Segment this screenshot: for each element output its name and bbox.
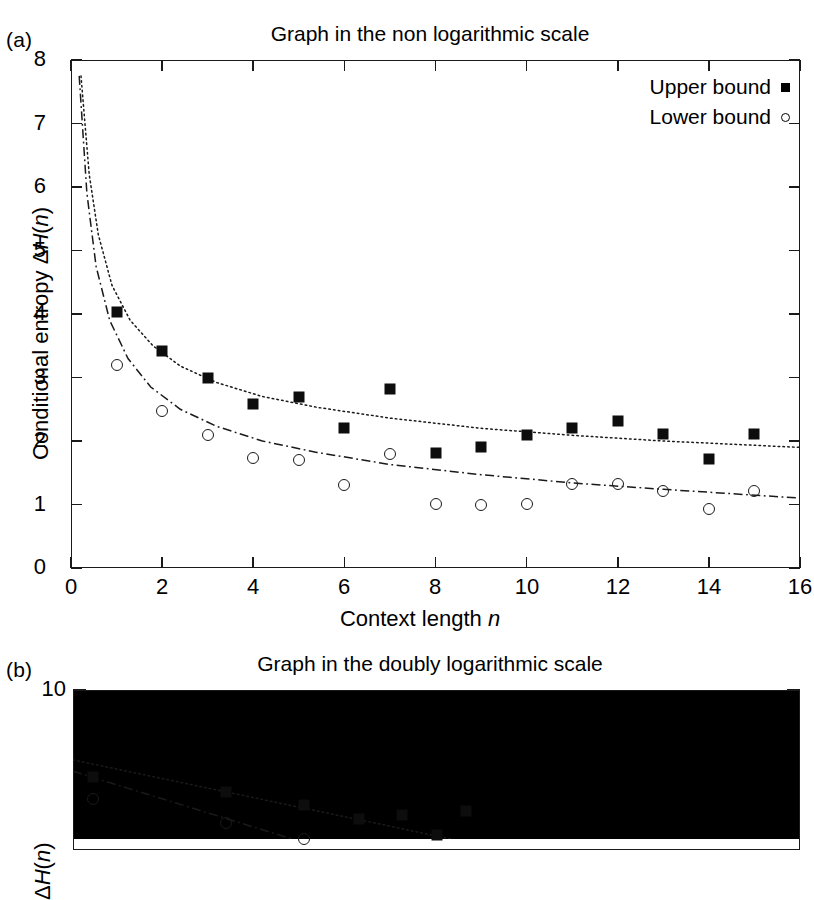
lower-bound-marker bbox=[566, 478, 578, 490]
x-tick-label-a-2: 2 bbox=[156, 574, 168, 600]
upper-bound-marker bbox=[567, 423, 578, 434]
panel-a-title: Graph in the non logarithmic scale bbox=[250, 22, 610, 46]
legend-a-row-upper: Upper bound bbox=[590, 72, 790, 102]
lower-bound-marker bbox=[87, 793, 99, 805]
upper-bound-marker bbox=[461, 805, 472, 816]
x-tick-b bbox=[666, 690, 668, 698]
x-tick-a bbox=[708, 557, 710, 568]
legend-a: Upper bound Lower bound bbox=[590, 72, 790, 132]
x-tick-a-top bbox=[161, 60, 163, 71]
open-circle-icon bbox=[781, 113, 790, 122]
panel-a-label: (a) bbox=[6, 28, 32, 52]
y-tick-a bbox=[71, 440, 82, 442]
upper-bound-marker bbox=[88, 771, 99, 782]
y-tick-a bbox=[71, 567, 82, 569]
x-tick-a bbox=[344, 557, 346, 568]
panel-b-label: (b) bbox=[6, 658, 32, 682]
y-axis-title-b-symbol: ΔH(n) bbox=[30, 843, 55, 900]
y-tick-b-right bbox=[792, 723, 800, 725]
lower-bound-marker bbox=[298, 833, 310, 845]
y-tick-b-right bbox=[792, 755, 800, 757]
x-axis-title-a-text: Context length bbox=[340, 606, 482, 631]
y-tick-label-a-8: 8 bbox=[34, 46, 46, 72]
y-tick-a bbox=[71, 250, 82, 252]
upper-bound-marker bbox=[521, 429, 532, 440]
y-tick-b bbox=[73, 755, 81, 757]
x-tick-a bbox=[252, 557, 254, 568]
y-tick-a bbox=[71, 504, 82, 506]
plot-area-a bbox=[71, 60, 800, 568]
y-tick-label-a-7: 7 bbox=[34, 110, 46, 136]
x-tick-label-a-16: 16 bbox=[788, 574, 812, 600]
upper-bound-marker bbox=[248, 398, 259, 409]
legend-a-lower-label: Lower bound bbox=[650, 102, 771, 132]
x-tick-a bbox=[70, 557, 72, 568]
x-tick-a-top bbox=[799, 60, 801, 71]
x-tick-b bbox=[401, 690, 403, 698]
x-tick-b bbox=[436, 690, 438, 698]
y-tick-a-right bbox=[789, 123, 800, 125]
upper-bound-marker bbox=[658, 429, 669, 440]
x-tick-a bbox=[161, 557, 163, 568]
x-tick-label-a-6: 6 bbox=[338, 574, 350, 600]
y-tick-a bbox=[71, 59, 82, 61]
upper-bound-marker bbox=[111, 307, 122, 318]
legend-b-upper-label: Upper bound bbox=[650, 700, 771, 730]
panel-b-title: Graph in the doubly logarithmic scale bbox=[250, 652, 610, 676]
x-tick-label-a-4: 4 bbox=[247, 574, 259, 600]
y-tick-b-right bbox=[792, 738, 800, 740]
x-tick-a-top bbox=[70, 60, 72, 71]
legend-b: Upper bound Lower bound bbox=[590, 700, 790, 760]
x-tick-b bbox=[491, 690, 493, 698]
lower-bound-marker bbox=[521, 498, 533, 510]
y-tick-b-right bbox=[792, 804, 800, 806]
upper-bound-marker bbox=[220, 787, 231, 798]
y-tick-a-right bbox=[789, 186, 800, 188]
y-tick-b-right bbox=[792, 777, 800, 779]
lower-bound-marker bbox=[475, 499, 487, 511]
y-axis-title-a-text: Conditional entropy bbox=[28, 270, 53, 460]
lower-bound-marker bbox=[202, 429, 214, 441]
upper-bound-marker bbox=[612, 416, 623, 427]
y-axis-title-a-symbol: ΔH(n) bbox=[28, 207, 53, 265]
y-tick-b bbox=[73, 689, 86, 691]
y-tick-b bbox=[73, 804, 81, 806]
upper-bound-marker bbox=[353, 813, 364, 824]
x-tick-a bbox=[799, 557, 801, 568]
y-tick-a-right bbox=[789, 504, 800, 506]
upper-bound-marker bbox=[202, 372, 213, 383]
upper-bound-marker bbox=[384, 383, 395, 394]
x-tick-a-top bbox=[252, 60, 254, 71]
x-tick-b bbox=[92, 690, 94, 703]
legend-b-row-upper: Upper bound bbox=[590, 700, 790, 730]
legend-b-row-lower: Lower bound bbox=[590, 730, 790, 760]
upper-bound-marker bbox=[293, 391, 304, 402]
x-tick-b bbox=[534, 690, 536, 703]
lower-bound-marker bbox=[156, 405, 168, 417]
y-tick-b bbox=[73, 777, 81, 779]
y-tick-label-a-6: 6 bbox=[34, 173, 46, 199]
y-tick-a bbox=[71, 313, 82, 315]
y-tick-a-right bbox=[789, 440, 800, 442]
upper-bound-marker bbox=[298, 799, 309, 810]
x-tick-a bbox=[526, 557, 528, 568]
upper-bound-marker bbox=[430, 448, 441, 459]
lower-bound-marker bbox=[338, 479, 350, 491]
x-tick-a-top bbox=[435, 60, 437, 71]
lower-bound-marker bbox=[111, 359, 123, 371]
y-tick-a-right bbox=[789, 250, 800, 252]
upper-bound-marker bbox=[431, 829, 442, 840]
y-axis-title-a: Conditional entropy ΔH(n) bbox=[28, 207, 54, 460]
x-tick-a-top bbox=[344, 60, 346, 71]
y-tick-label-b-10: 10 bbox=[42, 676, 66, 702]
y-tick-b bbox=[73, 699, 81, 701]
lower-bound-marker bbox=[247, 452, 259, 464]
lower-bound-marker bbox=[384, 448, 396, 460]
x-axis-title-a: Context length n bbox=[340, 606, 500, 632]
x-tick-label-a-12: 12 bbox=[606, 574, 630, 600]
lower-bound-marker bbox=[748, 485, 760, 497]
y-tick-a bbox=[71, 186, 82, 188]
x-tick-label-a-8: 8 bbox=[429, 574, 441, 600]
y-tick-b bbox=[73, 738, 81, 740]
y-tick-b-right bbox=[792, 699, 800, 701]
